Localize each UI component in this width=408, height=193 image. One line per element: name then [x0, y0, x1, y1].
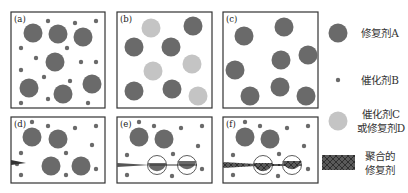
- panel-b-label: (b): [120, 14, 132, 24]
- legend-healing-agent-a-icon: [329, 24, 348, 43]
- legend-label-catalyst-c: 催化剂C 或修复剂D: [355, 107, 407, 135]
- panel-c-label: (c): [226, 14, 237, 24]
- legend-label-line2: 修复剂: [355, 163, 405, 177]
- panel-a-label: (a): [14, 14, 26, 24]
- self-healing-diagram: (a) (b) (c): [0, 0, 408, 193]
- panel-c: (c): [223, 12, 318, 108]
- legend-polymerized-agent-icon: [322, 155, 355, 170]
- legend-label-catalyst-b: 催化剂B: [355, 73, 405, 87]
- legend-label-healing-agent-a: 修复剂A: [355, 26, 405, 40]
- panel-b: (b): [117, 12, 212, 108]
- legend-label-polymerized-agent: 聚合的 修复剂: [355, 149, 405, 177]
- panel-d: (d): [11, 117, 105, 183]
- panel-d-label: (d): [14, 119, 26, 129]
- legend-catalyst-c-icon: [329, 112, 348, 131]
- legend-label-line2: 或修复剂D: [355, 121, 407, 135]
- legend-label-line1: 催化剂C: [355, 107, 407, 121]
- panel-f-label: (f): [226, 119, 236, 129]
- panel-a: (a): [11, 12, 105, 108]
- panel-e: (e): [117, 117, 212, 183]
- panel-e-label: (e): [120, 119, 132, 129]
- legend: [322, 24, 355, 171]
- legend-catalyst-b-icon: [336, 78, 340, 82]
- panel-f: (f): [223, 117, 318, 183]
- legend-label-line1: 聚合的: [355, 149, 405, 163]
